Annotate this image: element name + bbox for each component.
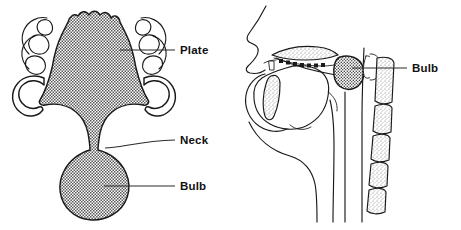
plate-label: Plate (180, 44, 209, 56)
left-tooth-upper (37, 20, 52, 36)
bulb-label-right: Bulb (412, 62, 438, 74)
right-tooth-lower (143, 56, 163, 74)
figure-root: Plate Neck Bulb (0, 0, 461, 230)
speech-bulb-obturator-figure: Plate Neck Bulb (0, 0, 461, 230)
bulb-label-left: Bulb (180, 180, 206, 192)
vertebra-body (369, 162, 388, 188)
right-tooth-upper (135, 20, 150, 36)
vertebra-body (371, 134, 390, 162)
neck-label: Neck (180, 134, 209, 146)
maxillary-tooth (321, 63, 325, 67)
left-tooth-lower (26, 56, 46, 74)
vertebra-body (367, 188, 386, 214)
vertebra-body (373, 104, 392, 134)
maxillary-incisor-tab (269, 61, 274, 70)
maxillary-tooth (314, 64, 318, 68)
vertebra-body (375, 57, 394, 104)
